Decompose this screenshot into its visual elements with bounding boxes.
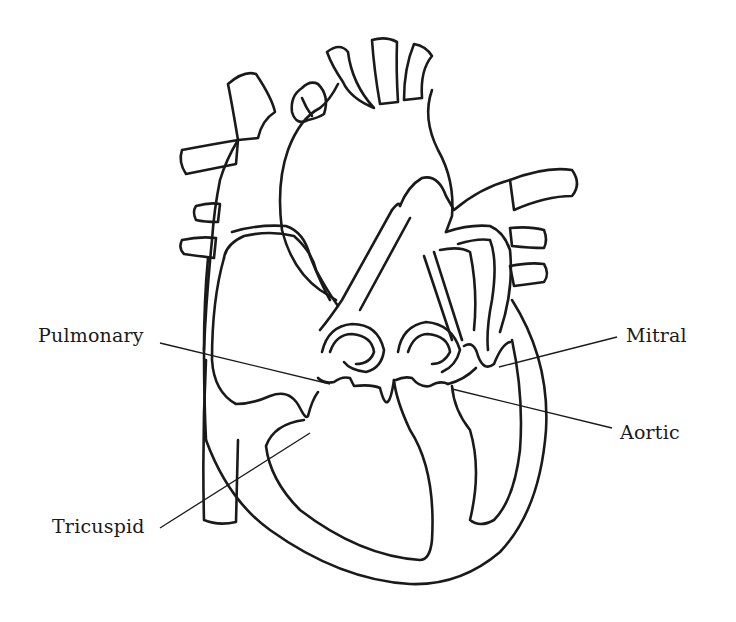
label-aortic: Aortic [620, 421, 680, 443]
label-mitral: Mitral [626, 324, 687, 346]
label-pulmonary: Pulmonary [38, 324, 144, 346]
heart-outline [180, 38, 577, 584]
mitral-leader-line [499, 337, 617, 367]
label-tricuspid: Tricuspid [52, 515, 145, 537]
aortic-leader-line [452, 389, 612, 428]
leader-lines [160, 337, 617, 528]
pulmonary-leader-line [160, 343, 330, 384]
